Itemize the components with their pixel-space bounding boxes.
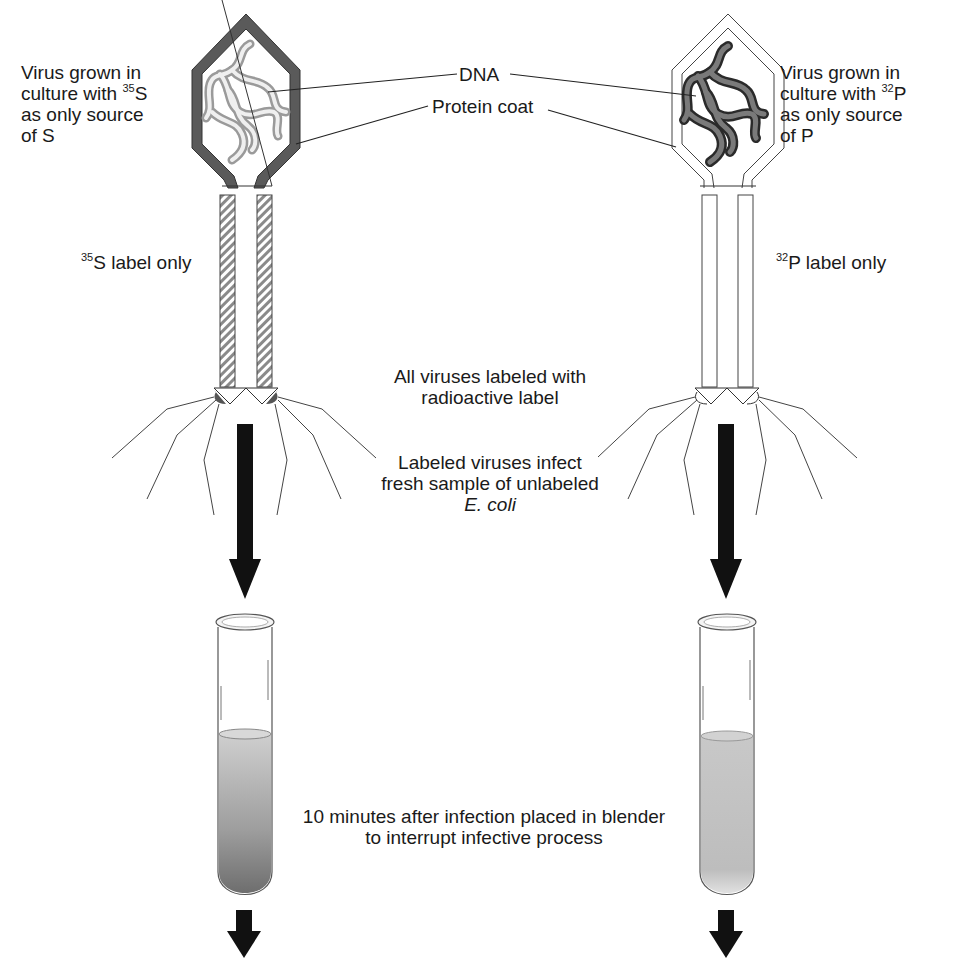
blender-line2: to interrupt infective process — [284, 827, 684, 848]
right-baseplate — [695, 388, 759, 404]
protein-coat-label: Protein coat — [432, 96, 533, 117]
right-growth-prefix: culture with — [780, 83, 881, 104]
blender-step: 10 minutes after infection placed in ble… — [284, 806, 684, 848]
left-tail-sheath — [220, 195, 272, 387]
culture-s35 — [219, 734, 271, 893]
culture-p32 — [701, 736, 753, 893]
all-labeled-line1: All viruses labeled with — [340, 366, 640, 387]
arrow-left-bottom — [227, 910, 261, 958]
dna-label: DNA — [459, 64, 499, 85]
infect-line3-ecoli: E. coli — [340, 494, 640, 515]
left-label-only-mass: 35 — [81, 251, 93, 263]
left-baseplate — [214, 388, 278, 404]
dna-leader-right — [510, 74, 696, 96]
left-growth-line1: Virus grown in — [21, 62, 147, 83]
right-growth-line3: as only source — [780, 104, 906, 125]
right-label-only-text: P label only — [788, 252, 886, 273]
arrow-right-main — [710, 424, 742, 599]
right-isotope-symbol: P — [894, 83, 907, 104]
left-isotope-symbol: S — [135, 83, 148, 104]
all-labeled-line2: radioactive label — [340, 387, 640, 408]
infect-line2: fresh sample of unlabeled — [340, 473, 640, 494]
right-label-only-mass: 32 — [776, 251, 788, 263]
blender-line1: 10 minutes after infection placed in ble… — [284, 806, 684, 827]
test-tube-right — [698, 614, 756, 895]
arrow-left-main — [229, 424, 261, 599]
protein-coat-leader-right — [548, 110, 676, 147]
right-growth-line1: Virus grown in — [780, 62, 906, 83]
left-label-only: 35S label only — [81, 252, 191, 273]
left-isotope-mass: 35 — [122, 82, 134, 94]
left-growth-line2: culture with 35S — [21, 83, 147, 104]
left-growth-line4: of S — [21, 125, 147, 146]
right-tail-sheath — [702, 195, 753, 387]
all-labeled-step: All viruses labeled with radioactive lab… — [340, 366, 640, 408]
infect-step: Labeled viruses infect fresh sample of u… — [340, 452, 640, 515]
right-label-only: 32P label only — [776, 252, 886, 273]
protein-coat-leader-left — [296, 106, 428, 144]
left-growth-label: Virus grown in culture with 35S as only … — [21, 62, 147, 146]
infect-line1: Labeled viruses infect — [340, 452, 640, 473]
test-tube-left — [216, 614, 274, 895]
arrow-right-bottom — [709, 910, 743, 958]
left-growth-prefix: culture with — [21, 83, 122, 104]
right-growth-label: Virus grown in culture with 32P as only … — [780, 62, 906, 146]
right-isotope-mass: 32 — [881, 82, 893, 94]
right-growth-line2: culture with 32P — [780, 83, 906, 104]
left-growth-line3: as only source — [21, 104, 147, 125]
right-growth-line4: of P — [780, 125, 906, 146]
left-dna — [206, 44, 286, 160]
left-label-only-text: S label only — [93, 252, 191, 273]
right-dna — [684, 46, 764, 162]
